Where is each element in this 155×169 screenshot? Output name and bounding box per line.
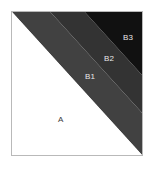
region-a-shape <box>12 12 142 155</box>
plot-frame: A B1 B2 B3 <box>11 11 143 156</box>
region-bands <box>12 12 142 155</box>
region-a <box>12 12 142 155</box>
diagram-figure: A B1 B2 B3 <box>0 0 155 169</box>
